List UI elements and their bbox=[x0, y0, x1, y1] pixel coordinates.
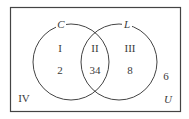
set-c-circle bbox=[33, 24, 109, 100]
region-iii-label: III bbox=[125, 42, 136, 54]
region-ii-label: II bbox=[91, 42, 99, 54]
region-i-value: 2 bbox=[57, 64, 63, 76]
region-iii-value: 8 bbox=[127, 64, 133, 76]
set-l-label: L bbox=[123, 18, 130, 30]
set-l-circle bbox=[81, 24, 157, 100]
region-iv-value: 6 bbox=[163, 70, 169, 82]
region-iv-label: IV bbox=[18, 92, 30, 104]
universe-label: U bbox=[164, 93, 173, 105]
venn-diagram: C L I 2 II 34 III 8 6 IV U bbox=[0, 0, 189, 119]
region-i-label: I bbox=[58, 42, 62, 54]
region-ii-value: 34 bbox=[90, 64, 102, 76]
universe-border bbox=[11, 8, 181, 112]
set-c-label: C bbox=[57, 18, 65, 30]
